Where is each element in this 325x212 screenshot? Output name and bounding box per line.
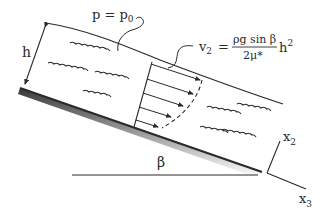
profile-arrow-5	[136, 120, 158, 127]
fluid-film-diagram: p = p0 h v2 = ρg sin β 2μ* h2 β x2 x3	[0, 0, 325, 212]
angle-label: β	[157, 154, 165, 170]
velocity-denominator: 2μ*	[243, 49, 263, 62]
surface-pressure-label: p = p0	[92, 7, 134, 24]
wall-shadow	[18, 88, 262, 178]
coordinate-axes	[267, 141, 306, 189]
profile-baseline	[134, 62, 152, 127]
velocity-lhs: v2	[198, 39, 212, 56]
height-label: h	[22, 44, 31, 60]
velocity-formula: v2 = ρg sin β 2μ* h2	[198, 33, 293, 62]
axis-x2-line	[267, 141, 280, 173]
velocity-factor: h2	[279, 38, 293, 55]
flow-wave-marks	[48, 42, 271, 137]
axis-x3-line	[267, 173, 306, 189]
axis-x2-label: x2	[283, 129, 296, 147]
profile-arrow-4	[139, 107, 171, 117]
profile-arrow-2	[147, 79, 193, 94]
velocity-numerator: ρg sin β	[233, 33, 276, 46]
axis-x3-label: x3	[299, 191, 312, 209]
parabolic-profile-curve	[162, 80, 202, 128]
velocity-equals: =	[218, 39, 229, 54]
profile-arrow-3	[143, 93, 183, 106]
diagram-canvas: p = p0 h v2 = ρg sin β 2μ* h2 β x2 x3	[0, 0, 325, 212]
